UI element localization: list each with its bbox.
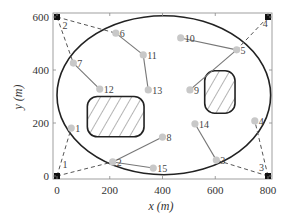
sensor-node-7 (70, 60, 77, 67)
sensor-label: 7 (77, 58, 82, 69)
sensor-label: 6 (120, 28, 125, 39)
sensor-label: 9 (194, 85, 199, 96)
sensor-node-12 (96, 85, 103, 92)
sensor-node-9 (186, 86, 193, 93)
obstacle-1 (87, 97, 144, 137)
sensor-label: 14 (199, 119, 209, 130)
sensor-node-11 (140, 51, 147, 58)
boundary-ellipse (57, 16, 271, 175)
x-axis-title: x (m) (148, 199, 174, 213)
sensor-label: 4 (259, 116, 264, 127)
sink-label: 1 (62, 159, 67, 170)
sensor-node-5 (233, 46, 240, 53)
x-tick-label: 800 (260, 184, 277, 196)
sensor-label: 5 (241, 45, 246, 56)
sensor-node-15 (150, 164, 157, 171)
sensor-node-8 (159, 133, 166, 140)
sink-label: 4 (263, 18, 268, 29)
y-tick-label: 400 (33, 64, 50, 76)
x-tick-label: 600 (207, 184, 224, 196)
sensor-node-10 (177, 34, 184, 41)
sensor-label: 2 (117, 157, 122, 168)
sensor-label: 12 (104, 84, 114, 95)
sensor-node-2 (109, 158, 116, 165)
sensor-node-3 (213, 157, 220, 164)
sensor-node-14 (191, 120, 198, 127)
x-tick-label: 400 (154, 184, 171, 196)
obstacles (87, 71, 235, 137)
sensor-node-4 (251, 117, 258, 124)
sensor-label: 8 (167, 132, 172, 143)
sensor-label: 15 (157, 163, 167, 174)
sensor-label: 3 (220, 155, 225, 166)
obstacle-2 (205, 71, 235, 113)
sink-label: 2 (62, 20, 67, 31)
y-tick-label: 200 (33, 117, 50, 129)
sensor-label: 1 (75, 123, 80, 134)
sink-label: 3 (259, 162, 264, 173)
y-tick-label: 600 (33, 11, 50, 23)
x-tick-label: 200 (102, 184, 119, 196)
sensor-label: 10 (185, 33, 195, 44)
deployment-plot: 1234567891011121314151234 x (m) y (m) 02… (0, 0, 291, 222)
x-tick-label: 0 (54, 184, 60, 196)
boundary-ellipse-shape (57, 16, 271, 175)
y-tick-label: 0 (44, 170, 50, 182)
sensor-label: 13 (152, 85, 162, 96)
sensor-label: 11 (147, 50, 157, 61)
y-axis-title: y (m) (11, 85, 25, 111)
sensor-node-6 (112, 30, 119, 37)
sensor-node-1 (68, 124, 75, 131)
sensor-node-13 (145, 86, 152, 93)
